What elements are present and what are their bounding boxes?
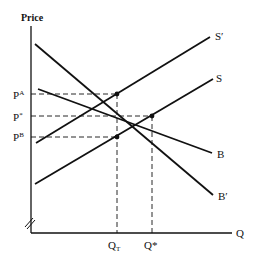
intersection-pb [115, 135, 120, 140]
axis-break-icon [25, 218, 35, 229]
x-axis-label: Q [236, 228, 244, 239]
intersection-pstar [150, 114, 155, 119]
price-label-pb: PB [13, 130, 24, 143]
curve-s-prime [36, 37, 210, 143]
curve-label-b: B [217, 149, 224, 160]
price-label-pstar: P* [13, 110, 23, 123]
curve-s [35, 79, 213, 184]
curve-b-prime [35, 44, 213, 195]
y-axis-label: Price [21, 12, 43, 23]
quantity-label-qt: QT [108, 240, 120, 255]
quantity-label-qstar: Q* [144, 240, 157, 251]
curve-label-b-prime: B′ [218, 191, 228, 202]
intersection-pa [115, 92, 120, 97]
curve-label-s-prime: S′ [215, 31, 224, 42]
price-label-pa: PA [13, 88, 24, 101]
curve-label-s: S [216, 73, 222, 84]
